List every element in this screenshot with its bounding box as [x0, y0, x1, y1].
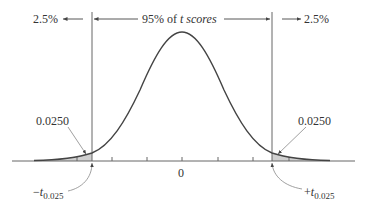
left-critical-pointer	[68, 163, 92, 191]
left-critical-sign: −	[33, 185, 40, 199]
right-tail-percent-label: 2.5%	[304, 13, 329, 25]
distribution-curve	[34, 32, 330, 161]
right-critical-label: +t0.025	[304, 186, 334, 201]
right-area-pointer	[278, 127, 306, 154]
left-critical-sub: 0.025	[43, 191, 63, 201]
right-critical-sign: +	[304, 185, 311, 199]
right-critical-pointer	[272, 163, 302, 189]
right-critical-sub: 0.025	[314, 191, 334, 201]
center-percent-suffix: scores	[183, 12, 216, 26]
left-tail-percent-label: 2.5%	[33, 13, 58, 25]
left-area-pointer	[68, 127, 86, 154]
center-percent-label: 95% of t scores	[141, 13, 218, 25]
zero-label: 0	[178, 167, 184, 179]
left-critical-label: −t0.025	[33, 186, 63, 201]
center-percent-prefix: 95% of	[142, 12, 180, 26]
t-distribution-diagram	[0, 0, 368, 207]
axis-ticks	[77, 157, 289, 161]
right-tail-area-label: 0.0250	[298, 115, 331, 127]
left-tail-area-label: 0.0250	[36, 115, 69, 127]
